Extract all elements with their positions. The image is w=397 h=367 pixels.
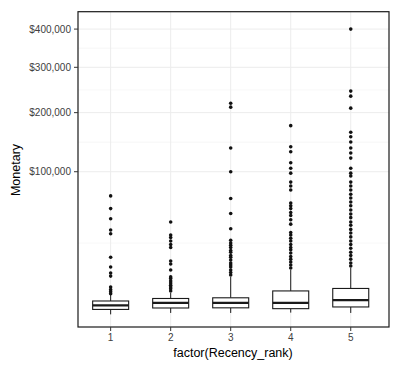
outlier-point: [289, 251, 293, 255]
y-tick-label: $300,000: [29, 62, 71, 73]
outlier-point: [349, 135, 353, 139]
outlier-point: [109, 265, 113, 269]
outlier-point: [349, 220, 353, 224]
outlier-point: [229, 212, 233, 216]
outlier-point: [289, 166, 293, 170]
outlier-point: [349, 130, 353, 134]
outlier-point: [229, 101, 233, 105]
outlier-point: [349, 180, 353, 184]
x-tick-label: 2: [168, 332, 174, 343]
outlier-point: [109, 232, 113, 236]
outlier-point: [289, 233, 293, 237]
outlier-point: [289, 145, 293, 149]
outlier-point: [349, 188, 353, 192]
outlier-point: [349, 235, 353, 239]
outlier-point: [109, 228, 113, 232]
outlier-point: [229, 250, 233, 254]
outlier-point: [349, 151, 353, 155]
outlier-point: [289, 248, 293, 252]
outlier-point: [169, 268, 173, 272]
outlier-point: [289, 161, 293, 165]
outlier-point: [229, 246, 233, 250]
outlier-point: [349, 184, 353, 188]
outlier-point: [109, 207, 113, 211]
outlier-point: [289, 266, 293, 270]
x-tick-label: 5: [348, 332, 354, 343]
y-tick-label: $400,000: [29, 24, 71, 35]
outlier-point: [289, 180, 293, 184]
outlier-point: [289, 222, 293, 226]
outlier-point: [169, 289, 173, 293]
outlier-point: [169, 262, 173, 266]
outlier-point: [229, 273, 233, 277]
outlier-point: [349, 250, 353, 254]
outlier-point: [289, 184, 293, 188]
outlier-point: [289, 150, 293, 154]
outlier-point: [349, 254, 353, 258]
outlier-point: [349, 239, 353, 243]
outlier-point: [109, 256, 113, 260]
y-tick-label: $100,000: [29, 166, 71, 177]
outlier-point: [109, 292, 113, 296]
outlier-point: [349, 146, 353, 150]
outlier-point: [349, 196, 353, 200]
x-tick-label: 3: [228, 332, 234, 343]
plot-area: $100,000$200,000$300,000$400,00012345: [0, 0, 397, 367]
outlier-point: [349, 27, 353, 31]
outlier-point: [109, 217, 113, 221]
outlier-point: [349, 192, 353, 196]
outlier-point: [349, 246, 353, 250]
boxplot-figure: $100,000$200,000$300,000$400,00012345 Mo…: [0, 0, 397, 367]
outlier-point: [349, 89, 353, 93]
outlier-point: [349, 174, 353, 178]
outlier-point: [349, 231, 353, 235]
outlier-point: [349, 208, 353, 212]
outlier-point: [349, 264, 353, 268]
outlier-point: [289, 171, 293, 175]
outlier-point: [349, 212, 353, 216]
outlier-point: [289, 124, 293, 128]
outlier-point: [169, 246, 173, 250]
outlier-point: [349, 257, 353, 261]
panel-background: [78, 12, 389, 327]
outlier-point: [349, 166, 353, 170]
outlier-point: [349, 106, 353, 110]
outlier-point: [289, 214, 293, 218]
x-tick-label: 1: [108, 332, 114, 343]
outlier-point: [109, 194, 113, 198]
x-tick-label: 4: [288, 332, 294, 343]
outlier-point: [169, 239, 173, 243]
outlier-point: [349, 223, 353, 227]
outlier-point: [349, 156, 353, 160]
outlier-point: [229, 105, 233, 109]
box-rect: [273, 291, 309, 309]
outlier-point: [109, 274, 113, 278]
outlier-point: [289, 218, 293, 222]
outlier-point: [109, 271, 113, 275]
outlier-point: [229, 146, 233, 150]
outlier-point: [349, 94, 353, 98]
outlier-point: [229, 197, 233, 201]
y-axis-title: Monetary: [9, 144, 23, 196]
outlier-point: [169, 220, 173, 224]
outlier-point: [349, 200, 353, 204]
outlier-point: [289, 239, 293, 243]
outlier-point: [289, 188, 293, 192]
outlier-point: [349, 204, 353, 208]
outlier-point: [349, 228, 353, 232]
outlier-point: [169, 236, 173, 240]
box-rect: [333, 288, 369, 307]
outlier-point: [229, 170, 233, 174]
x-axis-title: factor(Recency_rank): [173, 346, 293, 360]
outlier-point: [289, 207, 293, 211]
outlier-point: [349, 216, 353, 220]
outlier-point: [229, 227, 233, 231]
outlier-point: [349, 140, 353, 144]
y-tick-label: $200,000: [29, 107, 71, 118]
outlier-point: [349, 243, 353, 247]
